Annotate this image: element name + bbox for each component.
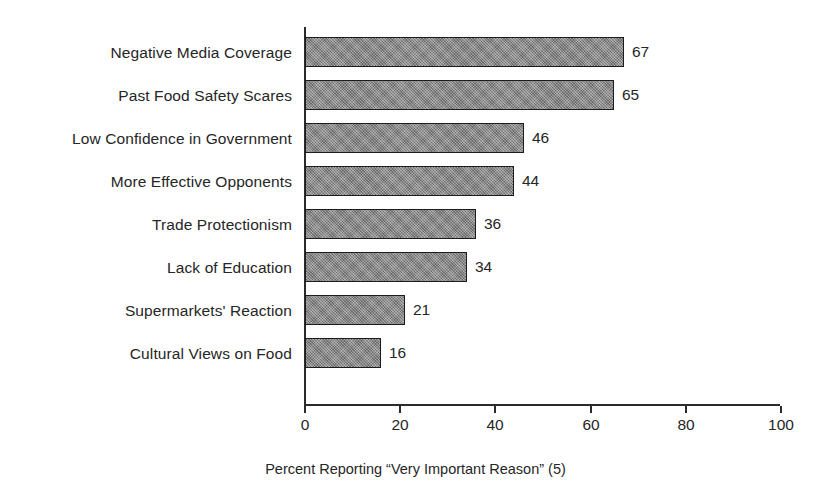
category-label: Supermarkets' Reaction [12, 303, 292, 319]
category-label: Negative Media Coverage [12, 45, 292, 61]
bar [305, 123, 524, 153]
x-axis-tick [590, 406, 592, 413]
bar [305, 166, 514, 196]
x-axis-tick [494, 406, 496, 413]
x-axis-tick-label: 80 [651, 417, 721, 433]
category-label: Lack of Education [12, 260, 292, 276]
bar-value-label: 21 [413, 295, 430, 325]
bar [305, 295, 405, 325]
category-label: Past Food Safety Scares [12, 88, 292, 104]
bar-value-label: 34 [475, 252, 492, 282]
bar-chart-figure: Negative Media Coverage Past Food Safety… [0, 0, 831, 504]
bar [305, 80, 614, 110]
x-axis-tick-label: 100 [746, 417, 816, 433]
x-axis-tick [399, 406, 401, 413]
x-axis-tick-label: 60 [556, 417, 626, 433]
x-axis-tick [685, 406, 687, 413]
bar-value-label: 16 [389, 338, 406, 368]
bar-value-label: 44 [522, 166, 539, 196]
category-label: Low Confidence in Government [12, 131, 292, 147]
bar [305, 338, 381, 368]
x-axis-tick-label: 20 [365, 417, 435, 433]
x-axis-tick-label: 0 [270, 417, 340, 433]
x-axis-tick [780, 406, 782, 413]
x-axis-caption: Percent Reporting “Very Important Reason… [0, 462, 831, 477]
bar [305, 209, 476, 239]
category-label: Trade Protectionism [12, 217, 292, 233]
category-label: More Effective Opponents [12, 174, 292, 190]
bar-value-label: 65 [622, 80, 639, 110]
bar-value-label: 46 [532, 123, 549, 153]
x-axis-tick-label: 40 [460, 417, 530, 433]
plot-area: 67 65 46 44 36 34 21 16 0 20 40 60 80 10… [304, 27, 780, 405]
x-axis-tick [304, 406, 306, 413]
bar-value-label: 67 [632, 37, 649, 67]
x-axis-line [304, 404, 780, 406]
category-label: Cultural Views on Food [12, 346, 292, 362]
bar-value-label: 36 [484, 209, 501, 239]
bar [305, 252, 467, 282]
bar [305, 37, 624, 67]
